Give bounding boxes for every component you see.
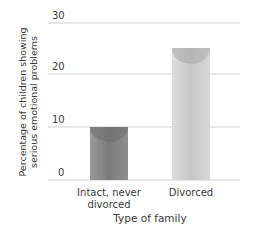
bar-intact bbox=[90, 127, 128, 180]
x-axis-label: Type of family bbox=[112, 212, 186, 224]
ytick-0: 0 bbox=[58, 167, 64, 178]
gridlines bbox=[48, 23, 240, 180]
ytick-20: 20 bbox=[52, 61, 65, 72]
bar-divorced bbox=[172, 48, 210, 180]
ytick-30: 30 bbox=[52, 10, 65, 21]
svg-text:serious emotional problems: serious emotional problems bbox=[28, 36, 39, 168]
svg-text:Percentage of children showing: Percentage of children showing bbox=[17, 27, 28, 176]
ytick-10: 10 bbox=[52, 114, 65, 125]
bar-chart: 30 20 10 0 Percentage of children showin… bbox=[0, 0, 254, 232]
y-axis-label: Percentage of children showing serious e… bbox=[17, 27, 39, 176]
x-axis-categories: Intact, never divorced Divorced bbox=[77, 187, 213, 210]
category-label-divorced: Divorced bbox=[169, 187, 213, 198]
category-label-intact-line1: Intact, never bbox=[77, 187, 142, 198]
y-axis-ticks: 30 20 10 0 bbox=[52, 10, 65, 178]
category-label-intact-line2: divorced bbox=[87, 199, 130, 210]
